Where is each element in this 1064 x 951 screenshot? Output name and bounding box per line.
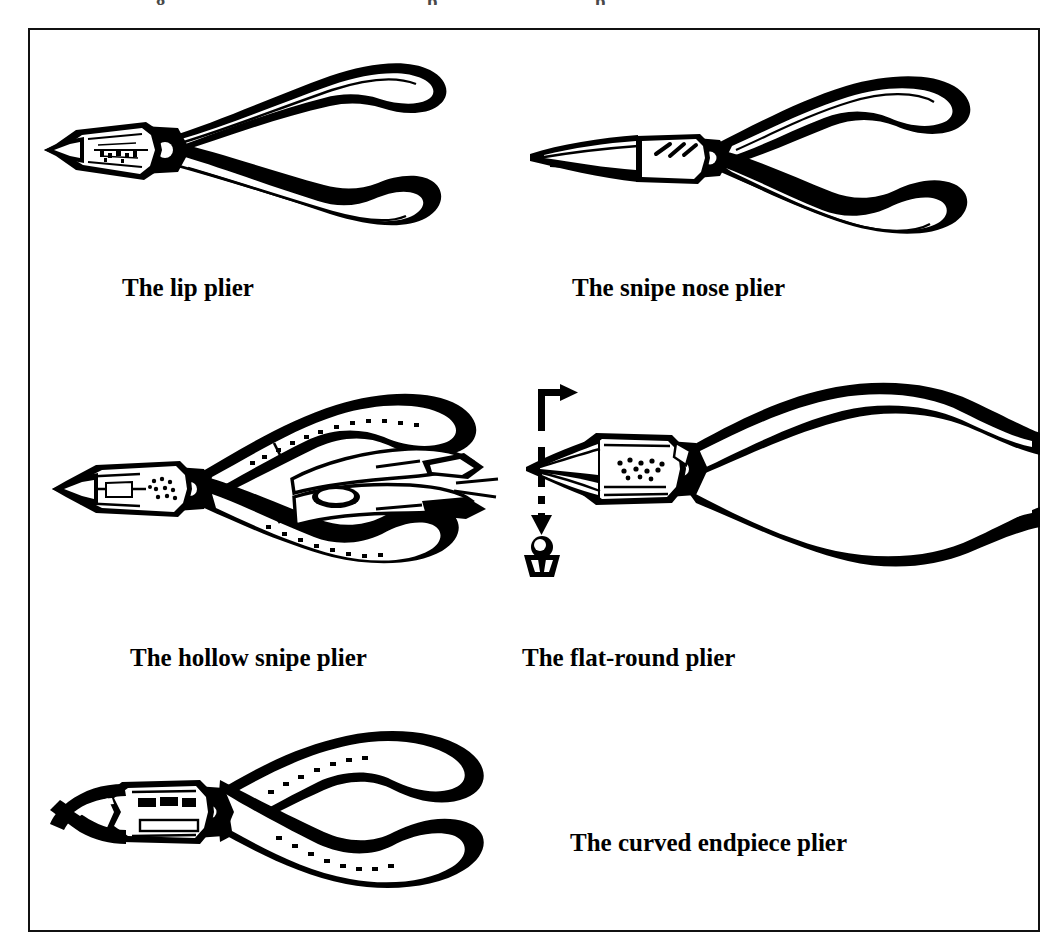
hollow-snipe-detail-inset [292, 449, 498, 525]
cropped-glyph-2: p [427, 0, 438, 5]
cropped-top-text-line: g p p [0, 0, 1064, 5]
label-snipe-nose-plier: The snipe nose plier [572, 275, 785, 300]
lip-plier-illustration [38, 38, 458, 253]
snipe-nose-plier-illustration [520, 58, 980, 258]
flat-round-plier-illustration [500, 375, 1040, 590]
figure-frame: The lip plier [28, 28, 1040, 932]
hollow-snipe-plier-illustration [36, 375, 506, 590]
cropped-glyph-1: g [156, 0, 166, 5]
label-lip-plier: The lip plier [122, 275, 254, 300]
label-hollow-snipe-plier: The hollow snipe plier [130, 645, 367, 670]
jaw-cross-section-icon [524, 536, 560, 577]
curved-endpiece-plier-illustration [40, 720, 540, 910]
cropped-glyph-3: p [595, 0, 606, 5]
label-flat-round-plier: The flat-round plier [522, 645, 735, 670]
label-curved-endpiece-plier: The curved endpiece plier [570, 830, 847, 855]
